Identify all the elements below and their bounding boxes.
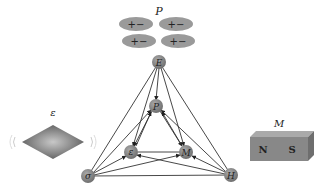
dipole-4: +−: [170, 36, 187, 47]
tetrahedral-coupling-diagram: P +− +− +− +− ε M N S: [0, 0, 319, 196]
node-P: P: [149, 99, 163, 113]
magnet-north: N: [258, 144, 267, 155]
node-H-label: H: [226, 171, 235, 181]
node-E-label: E: [155, 58, 163, 68]
magnet-south: S: [288, 144, 295, 155]
node-epsilon-label: ε: [129, 147, 134, 157]
polarization-title: P: [154, 5, 163, 18]
capacitor-diamond-icon: [10, 125, 96, 159]
node-epsilon: ε: [124, 145, 138, 159]
dipole-array: +− +− +− +−: [119, 17, 195, 48]
node-P-label: P: [152, 102, 160, 112]
dipole-1: +−: [128, 19, 145, 30]
node-sigma-label: σ: [85, 171, 92, 181]
node-M-label: M: [180, 148, 191, 158]
magnet-title: M: [273, 118, 285, 129]
dipole-2: +−: [168, 19, 185, 30]
node-M: M: [179, 145, 193, 159]
edges: [88, 62, 231, 176]
node-sigma: σ: [81, 169, 95, 183]
permittivity-title: ε: [50, 107, 55, 118]
node-E: E: [152, 55, 166, 69]
dipole-3: +−: [131, 36, 148, 47]
node-H: H: [224, 168, 238, 182]
bar-magnet-icon: N S: [250, 131, 314, 161]
